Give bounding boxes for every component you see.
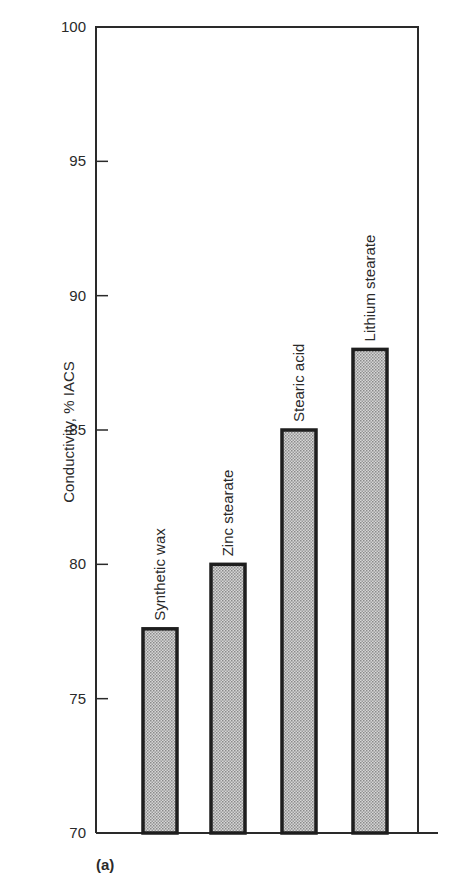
y-tick-label: 80 <box>69 555 86 572</box>
y-axis-label: Conductivity, % IACS <box>60 361 77 502</box>
chart-canvas: 707580859095100 Synthetic waxZinc steara… <box>0 0 463 879</box>
y-tick-label: 75 <box>69 690 86 707</box>
y-tick-label: 100 <box>61 18 86 35</box>
bar-zinc-stearate: Zinc stearate <box>211 470 245 833</box>
bar-rect <box>143 629 177 833</box>
y-tick-label: 90 <box>69 287 86 304</box>
bar-stearic-acid: Stearic acid <box>282 344 316 833</box>
bar-rect <box>211 564 245 833</box>
y-tick-label: 70 <box>69 824 86 841</box>
bar-label: Synthetic wax <box>151 528 168 621</box>
bar-lithium-stearate: Lithium stearate <box>353 235 387 833</box>
bar-label: Zinc stearate <box>219 470 236 557</box>
bar-chart: 707580859095100 Synthetic waxZinc steara… <box>0 0 463 879</box>
bar-label: Stearic acid <box>290 344 307 422</box>
bar-label: Lithium stearate <box>361 235 378 342</box>
y-tick-label: 95 <box>69 152 86 169</box>
bar-rect <box>282 430 316 833</box>
bar-rect <box>353 349 387 833</box>
bars: Synthetic waxZinc stearateStearic acidLi… <box>143 235 387 833</box>
panel-label: (a) <box>96 856 114 873</box>
bar-synthetic-wax: Synthetic wax <box>143 528 177 833</box>
